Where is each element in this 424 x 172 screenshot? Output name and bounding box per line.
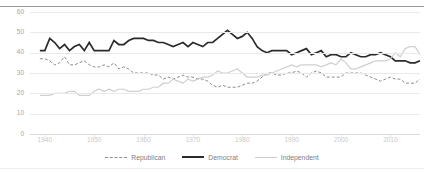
x-tick-1950 xyxy=(94,134,95,137)
x-tick-1990 xyxy=(292,134,293,137)
legend-item-democrat[interactable]: Democrat xyxy=(182,154,237,161)
x-tick-label-1940: 1940 xyxy=(30,136,60,143)
footer-divider xyxy=(0,168,424,169)
x-tick-1960 xyxy=(144,134,145,137)
plot-area: 0102030405060194019501960197019801990200… xyxy=(30,12,420,134)
legend-item-republican[interactable]: Republican xyxy=(105,154,165,161)
y-tick-label-40: 40 xyxy=(10,49,24,56)
legend-swatch-republican xyxy=(105,157,127,158)
gridline-y-10 xyxy=(30,114,420,115)
legend-label-independent: Independent xyxy=(281,154,319,161)
x-tick-1940 xyxy=(45,134,46,137)
y-tick-label-10: 10 xyxy=(10,110,24,117)
gridline-y-40 xyxy=(30,53,420,54)
x-tick-label-2000: 2000 xyxy=(326,136,356,143)
gridline-y-60 xyxy=(30,12,420,13)
chart-legend: Republican Democrat Independent xyxy=(0,150,424,164)
legend-label-republican: Republican xyxy=(131,154,165,161)
y-tick-label-50: 50 xyxy=(10,29,24,36)
x-tick-label-1960: 1960 xyxy=(129,136,159,143)
x-tick-label-1950: 1950 xyxy=(79,136,109,143)
y-tick-label-60: 60 xyxy=(10,9,24,16)
x-tick-2000 xyxy=(341,134,342,137)
x-tick-1970 xyxy=(193,134,194,137)
legend-swatch-independent xyxy=(255,157,277,158)
y-tick-label-30: 30 xyxy=(10,70,24,77)
y-tick-label-20: 20 xyxy=(10,90,24,97)
x-tick-label-2010: 2010 xyxy=(375,136,405,143)
legend-item-independent[interactable]: Independent xyxy=(255,154,319,161)
header-divider xyxy=(0,6,424,7)
gridline-y-50 xyxy=(30,32,420,33)
x-tick-label-1990: 1990 xyxy=(277,136,307,143)
gridline-y-20 xyxy=(30,93,420,94)
x-tick-label-1980: 1980 xyxy=(227,136,257,143)
x-tick-1980 xyxy=(242,134,243,137)
party-identification-chart: 0102030405060194019501960197019801990200… xyxy=(0,0,424,172)
gridline-y-0 xyxy=(30,134,420,135)
x-tick-label-1970: 1970 xyxy=(178,136,208,143)
line-democrat xyxy=(40,30,420,63)
legend-label-democrat: Democrat xyxy=(208,154,237,161)
legend-swatch-democrat xyxy=(182,156,204,158)
x-tick-2010 xyxy=(390,134,391,137)
gridline-y-30 xyxy=(30,73,420,74)
line-independent xyxy=(40,47,420,96)
y-tick-label-0: 0 xyxy=(10,131,24,138)
